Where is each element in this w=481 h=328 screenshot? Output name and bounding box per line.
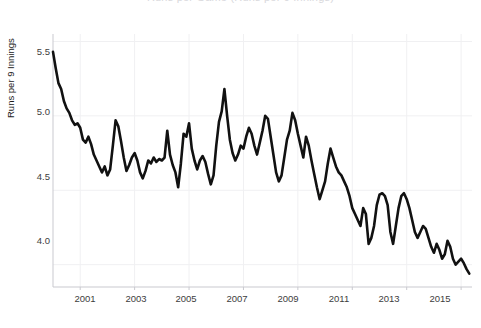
x-tick-label-2009: 2009 (265, 293, 311, 304)
x-tick-label-2005: 2005 (163, 293, 209, 304)
x-tick-label-2007: 2007 (214, 293, 260, 304)
x-tick-label-2011: 2011 (316, 293, 362, 304)
horizontal-gridlines (53, 41, 472, 264)
x-tick-label-2015: 2015 (417, 293, 463, 304)
x-tick-label-2003: 2003 (113, 293, 159, 304)
x-tick-label-2013: 2013 (366, 293, 412, 304)
x-tick-label-2001: 2001 (62, 293, 108, 304)
chart-plot-area (0, 0, 481, 328)
chart-container: Runs per Game (Runs per 9 Innings) Runs … (0, 0, 481, 328)
